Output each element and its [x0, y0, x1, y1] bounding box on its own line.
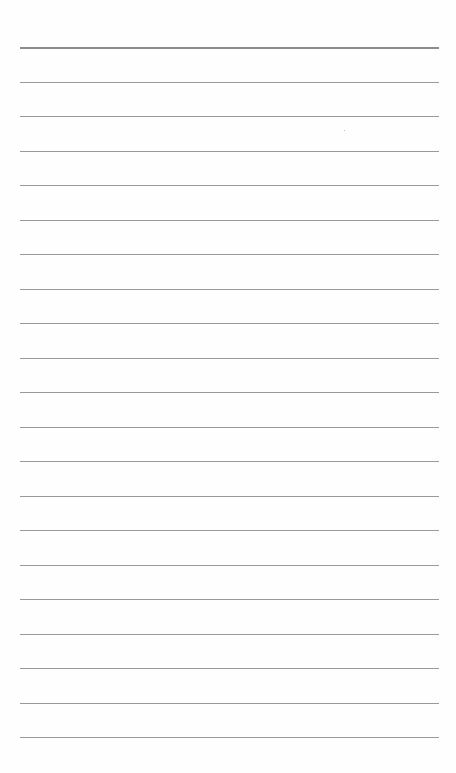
ruled-line [20, 254, 439, 255]
ruled-line [20, 151, 439, 152]
ruled-line [20, 220, 439, 221]
paper-speck [344, 130, 345, 131]
ruled-line [20, 185, 439, 186]
ruled-page [0, 0, 456, 773]
ruled-line [20, 599, 439, 600]
ruled-line [20, 703, 439, 704]
ruled-line [20, 82, 439, 83]
ruled-line [20, 427, 439, 428]
ruled-line [20, 496, 439, 497]
ruled-line [20, 461, 439, 462]
ruled-line [20, 289, 439, 290]
ruled-line [20, 116, 439, 117]
ruled-line [20, 392, 439, 393]
ruled-line [20, 565, 439, 566]
ruled-line [20, 737, 439, 738]
ruled-line [20, 323, 439, 324]
ruled-line [20, 634, 439, 635]
ruled-line [20, 47, 439, 49]
ruled-line [20, 530, 439, 531]
ruled-line [20, 668, 439, 669]
ruled-line [20, 358, 439, 359]
